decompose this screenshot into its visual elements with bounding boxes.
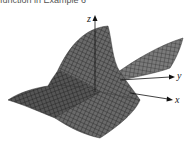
- surface-right-wing: [118, 38, 183, 80]
- surface-plot: z y x: [0, 0, 190, 149]
- x-axis-label: x: [174, 94, 180, 105]
- y-axis-label: y: [176, 70, 182, 81]
- z-axis-label: z: [86, 13, 91, 24]
